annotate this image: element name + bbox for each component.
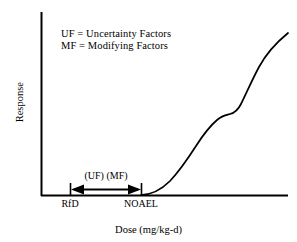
y-axis-title: Response: [14, 66, 26, 138]
legend-line-mf: MF = Modifying Factors: [61, 40, 171, 52]
rfd-label: RfD: [50, 198, 90, 210]
uf-mf-span-arrow-head-right: [128, 185, 141, 195]
legend: UF = Uncertainty Factors MF = Modifying …: [61, 28, 171, 53]
uf-mf-span-arrow-head-left: [71, 185, 84, 195]
x-axis-title: Dose (mg/kg-d): [0, 224, 297, 236]
dose-response-figure: UF = Uncertainty Factors MF = Modifying …: [0, 0, 297, 242]
legend-line-uf: UF = Uncertainty Factors: [61, 28, 171, 40]
uf-mf-span-label: (UF) (MF): [69, 170, 143, 182]
noael-label: NOAEL: [115, 198, 167, 210]
dose-response-curve: [141, 33, 288, 195]
